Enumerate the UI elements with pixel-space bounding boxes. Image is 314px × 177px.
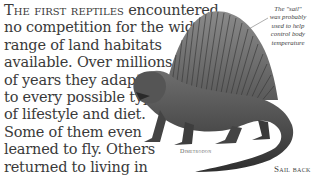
paragraph-line-11: the sea. (4, 176, 254, 177)
illustration-caption: Dimetrodon (180, 148, 211, 154)
section-label: Sail back (274, 164, 311, 174)
sail-annotation: The "sail" was probably used to help con… (262, 5, 314, 47)
lead-in-small-caps: The first reptiles (4, 2, 124, 18)
